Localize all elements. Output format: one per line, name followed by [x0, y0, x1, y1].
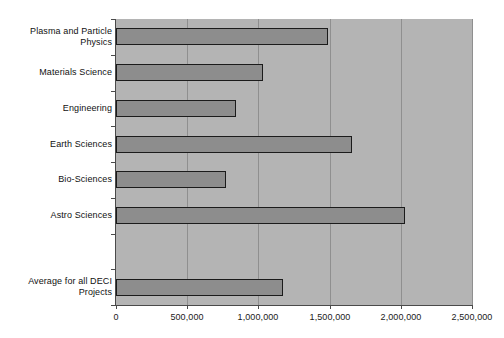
- bar: [116, 136, 352, 153]
- y-tick: [111, 91, 115, 92]
- category-label: Earth Sciences: [0, 139, 112, 150]
- x-tick-label: 1,500,000: [310, 312, 351, 322]
- y-tick: [111, 234, 115, 235]
- gridline: [258, 19, 259, 305]
- category-label: Bio-Sciences: [0, 174, 112, 185]
- x-tick-label: 0: [113, 312, 118, 322]
- x-tick: [401, 305, 402, 309]
- bar: [116, 28, 328, 45]
- x-tick: [258, 305, 259, 309]
- category-label: Engineering: [0, 103, 112, 114]
- bar: [116, 171, 226, 188]
- category-label: Average for all DECI Projects: [0, 276, 112, 298]
- x-tick-label: 500,000: [170, 312, 203, 322]
- bar: [116, 279, 283, 296]
- bar: [116, 64, 263, 81]
- y-tick: [111, 198, 115, 199]
- plot-area: [116, 19, 472, 305]
- y-tick: [111, 55, 115, 56]
- y-tick: [111, 305, 115, 306]
- x-tick: [116, 305, 117, 309]
- y-axis-line: [115, 19, 116, 306]
- category-label: Materials Science: [0, 67, 112, 78]
- bar: [116, 100, 236, 117]
- y-tick: [111, 19, 115, 20]
- x-tick: [330, 305, 331, 309]
- y-tick: [111, 162, 115, 163]
- bar: [116, 207, 405, 224]
- y-tick: [111, 269, 115, 270]
- category-label: Astro Sciences: [0, 210, 112, 221]
- y-tick: [111, 126, 115, 127]
- category-label: Plasma and Particle Physics: [0, 26, 112, 48]
- x-tick-label: 2,000,000: [381, 312, 422, 322]
- gridline: [187, 19, 188, 305]
- gridline: [401, 19, 402, 305]
- gridline: [472, 19, 473, 305]
- x-tick-label: 1,000,000: [238, 312, 279, 322]
- x-tick: [472, 305, 473, 309]
- x-tick-label: 2,500,000: [452, 312, 493, 322]
- gridline: [330, 19, 331, 305]
- x-axis-line: [115, 305, 473, 306]
- bar-chart: 0500,0001,000,0001,500,0002,000,0002,500…: [0, 0, 504, 338]
- x-tick: [187, 305, 188, 309]
